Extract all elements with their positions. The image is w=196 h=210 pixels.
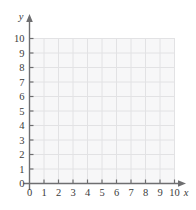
y-tick-label: 6	[19, 91, 24, 102]
y-axis-arrow-icon	[26, 14, 33, 22]
y-tick-label: 8	[19, 62, 24, 73]
x-tick-label: 5	[99, 187, 104, 198]
y-tick-label: 3	[19, 135, 24, 146]
x-tick-label: 7	[128, 187, 133, 198]
y-tick-label-origin: 0	[19, 178, 24, 189]
coordinate-grid-figure: 012345678910 123456789100 x y	[0, 0, 196, 210]
x-axis-tick-labels: 012345678910	[27, 187, 180, 198]
x-axis-label: x	[183, 187, 189, 198]
y-tick-label: 9	[19, 48, 24, 59]
y-axis-label: y	[18, 11, 24, 22]
x-tick-label: 10	[169, 187, 180, 198]
coordinate-plane-svg: 012345678910 123456789100 x y	[0, 0, 196, 210]
x-tick-label: 8	[143, 187, 148, 198]
x-tick-label: 1	[41, 187, 46, 198]
y-tick-label: 1	[19, 164, 24, 175]
y-tick-label: 7	[19, 77, 24, 88]
x-tick-label: 4	[85, 187, 91, 198]
x-tick-label: 2	[56, 187, 61, 198]
x-tick-label: 6	[114, 187, 119, 198]
y-tick-label: 5	[19, 106, 24, 117]
x-tick-label: 3	[70, 187, 75, 198]
x-tick-label: 9	[157, 187, 162, 198]
y-tick-label: 2	[19, 149, 24, 160]
x-tick-label: 0	[27, 187, 32, 198]
y-axis-tick-labels: 123456789100	[14, 33, 25, 189]
y-tick-label: 4	[19, 120, 25, 131]
y-tick-label: 10	[14, 33, 25, 44]
